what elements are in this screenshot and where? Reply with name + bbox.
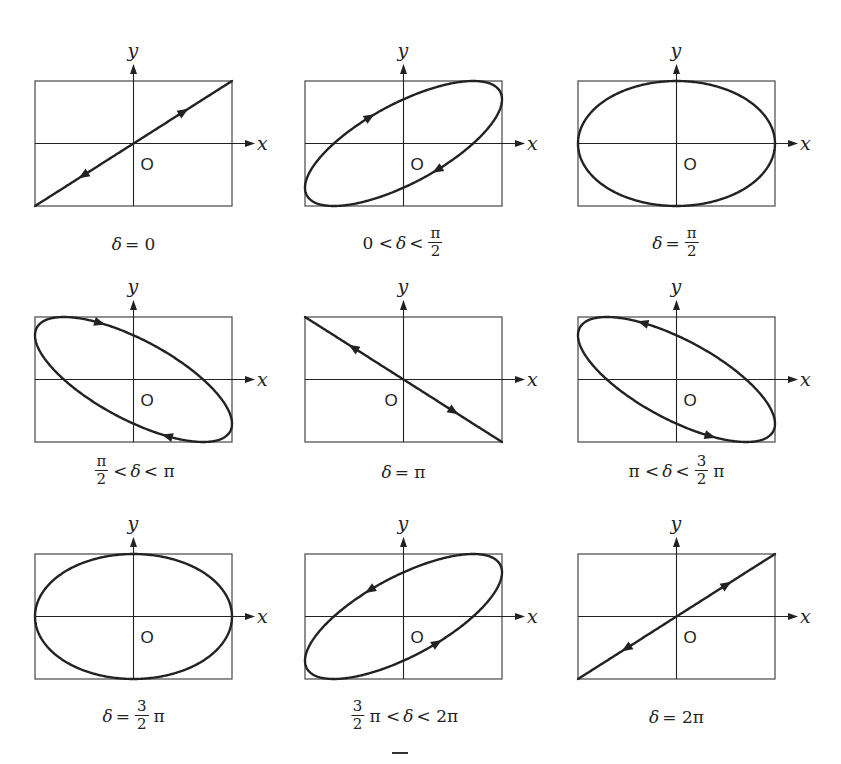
caption-text: π < xyxy=(369,706,400,726)
delta-symbol: δ xyxy=(102,706,112,726)
delta-symbol: δ xyxy=(403,706,413,726)
direction-arrow xyxy=(79,169,91,179)
fraction-denominator: 2 xyxy=(697,471,707,487)
x-axis-label: x xyxy=(800,368,811,390)
caption-delta-half-pi: δ=π2 xyxy=(652,226,700,259)
fraction-denominator: 2 xyxy=(137,716,147,732)
delta-symbol: δ xyxy=(662,461,672,481)
y-axis-label: y xyxy=(127,39,139,61)
panel-delta-3half-pi-to-2pi: xyO xyxy=(305,512,538,679)
origin-label: O xyxy=(684,391,697,410)
caption-delta-0-to-half-pi: 0 <δ<π2 xyxy=(363,226,445,259)
caption-text: = xyxy=(666,233,680,253)
y-axis-label: y xyxy=(397,39,409,61)
origin-label: O xyxy=(385,391,398,410)
caption-delta-3half-pi: δ=32π xyxy=(102,699,164,732)
direction-arrow xyxy=(162,433,174,442)
origin-label: O xyxy=(684,155,697,174)
direction-arrow xyxy=(720,582,732,592)
origin-label: O xyxy=(141,155,154,174)
fraction-denominator: 2 xyxy=(353,716,363,732)
y-axis-label: y xyxy=(670,39,682,61)
fraction: 32 xyxy=(135,699,149,732)
y-axis-label: y xyxy=(670,275,682,297)
fraction: 32 xyxy=(351,699,365,732)
panel-delta-pi: xyO xyxy=(305,275,538,442)
y-axis-label: y xyxy=(127,275,139,297)
caption-delta-2pi: δ= 2π xyxy=(649,707,704,727)
x-axis-label: x xyxy=(800,605,811,627)
origin-label: O xyxy=(141,391,154,410)
fraction-numerator: 3 xyxy=(695,454,709,471)
caption-text: < xyxy=(676,461,690,481)
fraction: π2 xyxy=(429,226,443,259)
direction-arrow xyxy=(177,109,189,119)
panel-delta-0: xyO xyxy=(35,39,268,206)
caption-text: = xyxy=(116,706,130,726)
fraction: 32 xyxy=(695,454,709,487)
fraction-numerator: π xyxy=(429,226,443,243)
caption-text: π < xyxy=(628,461,659,481)
caption-delta-pi: δ= π xyxy=(381,462,425,482)
fraction-numerator: 3 xyxy=(351,699,365,716)
caption-text: π xyxy=(713,461,724,481)
delta-symbol: δ xyxy=(112,234,122,254)
caption-text: < xyxy=(113,461,127,481)
fraction-numerator: π xyxy=(94,454,108,471)
caption-text: π xyxy=(153,706,164,726)
caption-text: = 2π xyxy=(662,707,704,727)
y-axis-label: y xyxy=(397,512,409,534)
y-axis-label: y xyxy=(127,512,139,534)
direction-arrow xyxy=(93,317,105,326)
direction-arrow xyxy=(349,345,361,355)
caption-delta-pi-to-3half-pi: π <δ<32π xyxy=(628,454,724,487)
caption-text: < 2π xyxy=(416,706,458,726)
panel-delta-3half-pi: xyO xyxy=(35,512,268,679)
panel-delta-half-pi-to-pi: xyO xyxy=(35,275,268,442)
x-axis-label: x xyxy=(527,368,538,390)
delta-symbol: δ xyxy=(652,233,662,253)
origin-label: O xyxy=(411,628,424,647)
fraction: π2 xyxy=(94,454,108,487)
direction-arrow xyxy=(638,320,650,329)
origin-label: O xyxy=(684,628,697,647)
y-axis-label: y xyxy=(670,512,682,534)
delta-symbol: δ xyxy=(381,462,391,482)
figure-number-fragment xyxy=(392,752,408,754)
y-axis-label: y xyxy=(397,275,409,297)
caption-delta-3half-pi-to-2pi: 32π <δ< 2π xyxy=(349,699,458,732)
fraction-denominator: 2 xyxy=(97,471,107,487)
caption-text: < π xyxy=(144,461,175,481)
fraction-numerator: 3 xyxy=(135,699,149,716)
panel-delta-half-pi: xyO xyxy=(578,39,811,206)
caption-text: 0 < xyxy=(363,233,393,253)
delta-symbol: δ xyxy=(396,233,406,253)
x-axis-label: x xyxy=(257,605,268,627)
x-axis-label: x xyxy=(257,132,268,154)
panel-delta-pi-to-3half-pi: xyO xyxy=(578,275,811,442)
direction-arrow xyxy=(447,405,459,415)
origin-label: O xyxy=(141,628,154,647)
caption-text: = π xyxy=(395,462,426,482)
x-axis-label: x xyxy=(800,132,811,154)
delta-symbol: δ xyxy=(649,707,659,727)
fraction-numerator: π xyxy=(685,226,699,243)
panel-delta-0-to-half-pi: xyO xyxy=(305,39,538,206)
origin-label: O xyxy=(411,155,424,174)
fraction-denominator: 2 xyxy=(687,243,697,259)
delta-symbol: δ xyxy=(131,461,141,481)
lissajous-figure-grid: xyOxyOxyOxyOxyOxyOxyOxyOxyO xyxy=(0,0,841,764)
caption-text: < xyxy=(409,233,423,253)
panel-delta-2pi: xyO xyxy=(578,512,811,679)
caption-delta-half-pi-to-pi: π2<δ< π xyxy=(92,454,174,487)
x-axis-label: x xyxy=(257,368,268,390)
caption-delta-0: δ= 0 xyxy=(112,234,156,254)
caption-text: = 0 xyxy=(125,234,155,254)
x-axis-label: x xyxy=(527,605,538,627)
direction-arrow xyxy=(704,430,716,439)
direction-arrow xyxy=(622,642,634,652)
fraction-denominator: 2 xyxy=(431,243,441,259)
fraction: π2 xyxy=(685,226,699,259)
x-axis-label: x xyxy=(527,132,538,154)
